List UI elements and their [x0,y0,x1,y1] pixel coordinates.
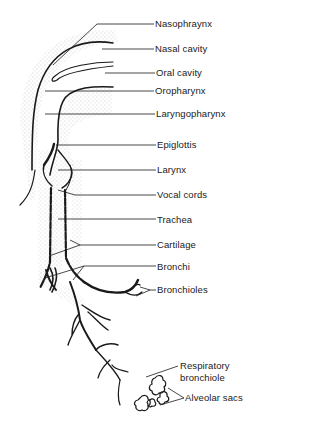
label-alveolar-sacs: Alveolar sacs [185,392,243,403]
label-larynx: Larynx [157,164,186,175]
label-laryngopharynx: Laryngopharynx [156,108,226,119]
leader-cartilage-1 [70,240,156,245]
label-epiglottis: Epiglottis [157,139,197,150]
label-vocal-cords: Vocal cords [157,189,207,200]
alveolar-sacs-shape [135,376,169,411]
leader-alveolar-sacs-2 [160,398,184,405]
label-nasopharynx: Nasophraynx [155,18,212,29]
label-oropharynx: Oropharynx [155,85,206,96]
label-cartilage: Cartilage [157,239,196,250]
label-respiratory-bronchiole-line2: bronchiole [180,372,225,383]
label-trachea: Trachea [157,214,192,225]
label-respiratory-bronchiole-line1: Respiratory [180,360,230,371]
leader-alveolar-sacs-1 [168,388,184,398]
label-nasal-cavity: Nasal cavity [155,43,207,54]
label-oral-cavity: Oral cavity [156,67,202,78]
label-bronchi: Bronchi [157,261,190,272]
label-bronchioles: Bronchioles [157,284,208,295]
leader-bronchioles [140,287,156,290]
leader-respiratory-bronchiole [146,366,178,377]
leader-bronchioles-2 [136,290,150,296]
